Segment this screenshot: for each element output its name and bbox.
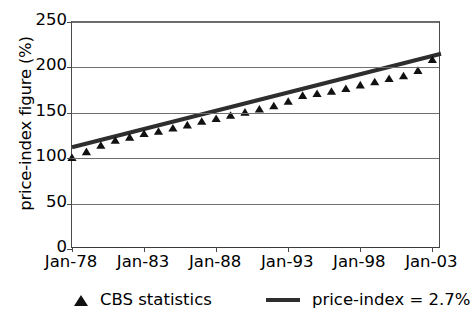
y-tick-mark <box>67 113 72 114</box>
data-point-marker <box>284 97 293 105</box>
y-axis-tick-labels: 050100150200250 <box>30 0 67 260</box>
y-tick-mark <box>67 22 72 23</box>
legend-label-cbs-statistics: CBS statistics <box>100 291 212 309</box>
legend-item-cbs-statistics: CBS statistics <box>74 288 212 312</box>
data-point-marker <box>312 89 321 97</box>
gridline-y <box>72 22 439 23</box>
y-tick-label: 50 <box>30 194 67 210</box>
y-tick-label: 200 <box>30 57 67 73</box>
chart-legend: CBS statistics price-index = 2.7% <box>0 288 465 318</box>
cbs-statistics-series <box>67 55 437 161</box>
data-point-marker <box>82 148 91 156</box>
series-layer <box>72 22 441 249</box>
y-tick-label: 250 <box>30 12 67 28</box>
data-point-marker <box>197 117 206 125</box>
x-tick-label: Jan-03 <box>388 252 474 272</box>
y-tick-mark <box>67 67 72 68</box>
gridline-y <box>72 67 439 68</box>
gridline-y <box>72 158 439 159</box>
triangle-marker-icon <box>74 295 88 306</box>
y-axis-title-container: price-index figure (%) <box>0 0 34 250</box>
data-point-marker <box>385 74 394 82</box>
data-point-marker <box>399 72 408 80</box>
data-point-marker <box>255 105 264 113</box>
legend-item-price-index: price-index = 2.7% <box>266 288 470 312</box>
data-point-marker <box>298 91 307 99</box>
x-axis-tick-labels: Jan-78Jan-83Jan-88Jan-93Jan-98Jan-03 <box>0 252 465 276</box>
data-point-marker <box>356 81 365 89</box>
data-point-marker <box>212 114 221 122</box>
gridline-y <box>72 204 439 205</box>
data-point-marker <box>154 127 163 135</box>
data-point-marker <box>327 87 336 95</box>
gridline-y <box>72 113 439 114</box>
legend-label-price-index: price-index = 2.7% <box>312 291 470 309</box>
line-swatch-icon <box>266 298 300 303</box>
plot-area <box>71 21 440 248</box>
data-point-marker <box>183 121 192 129</box>
y-tick-mark <box>67 158 72 159</box>
y-tick-label: 100 <box>30 148 67 164</box>
data-point-marker <box>269 102 278 110</box>
data-point-marker <box>370 78 379 86</box>
y-tick-mark <box>67 204 72 205</box>
data-point-marker <box>168 124 177 132</box>
y-tick-label: 150 <box>30 103 67 119</box>
data-point-marker <box>341 84 350 92</box>
